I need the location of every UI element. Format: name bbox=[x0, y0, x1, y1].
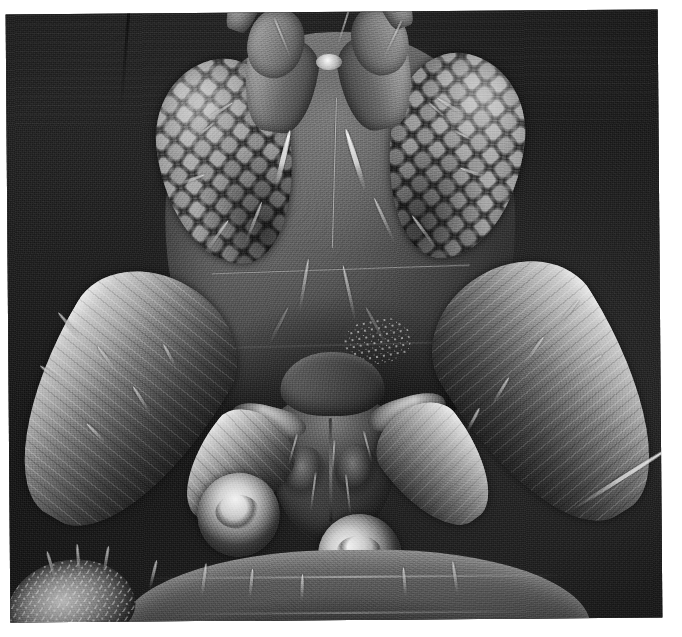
sem-noise-speckle bbox=[6, 9, 663, 622]
micrograph-plate bbox=[6, 9, 663, 622]
sem-micrograph-figure bbox=[0, 0, 682, 637]
